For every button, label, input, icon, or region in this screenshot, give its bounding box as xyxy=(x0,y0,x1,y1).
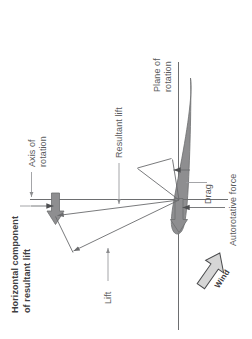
label-resultant-lift: Resultant lift xyxy=(114,107,125,158)
diagram-canvas xyxy=(0,0,252,339)
label-plane-of-rotation-line1: Plane of xyxy=(152,58,163,92)
label-autorotative-force: Autorotative force xyxy=(228,174,239,246)
force-parallelogram-side xyxy=(56,217,74,253)
resultant-lift-thick-arrow xyxy=(47,193,64,225)
label-axis-of-rotation-line2: rotation xyxy=(38,136,49,167)
label-lift: Lift xyxy=(103,292,114,304)
label-horizontal-component-line2: of resultant lift xyxy=(22,249,33,313)
lift-vector xyxy=(74,200,180,251)
resultant-lift-vector xyxy=(58,200,180,216)
label-plane-of-rotation-line2: rotation xyxy=(163,61,174,92)
label-axis-of-rotation-line1: Axis of xyxy=(27,139,38,167)
autorotation-force-diagram: Plane of rotation Axis of rotation Resul… xyxy=(0,0,252,339)
label-horizontal-component-line1: Horizontal component xyxy=(10,216,21,313)
label-drag: Drag xyxy=(203,184,214,204)
